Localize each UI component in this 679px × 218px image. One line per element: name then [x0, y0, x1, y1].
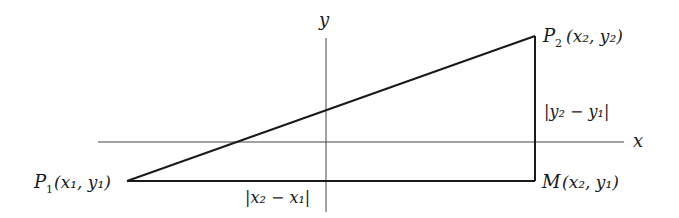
y-axis-label: y: [318, 9, 330, 30]
vertical-distance-label: |y₂ − y₁|: [544, 102, 609, 121]
point-p1-coords: (x₁, y₁): [54, 172, 111, 192]
x-axis-label: x: [633, 130, 643, 151]
point-p1-name: P: [33, 171, 47, 192]
hypotenuse-p1-p2: [127, 36, 535, 181]
point-m-name: M: [541, 171, 561, 192]
point-p2-label: P 2 (x₂, y₂): [542, 25, 623, 50]
point-p1-subscript: 1: [46, 183, 53, 196]
point-p2-subscript: 2: [555, 37, 562, 50]
point-m-label: M (x₂, y₁): [541, 171, 619, 192]
point-p2-name: P: [542, 25, 556, 46]
point-p1-label: P 1 (x₁, y₁): [33, 171, 111, 196]
horizontal-distance-label: |x₂ − x₁|: [245, 188, 310, 207]
distance-formula-diagram: y x P 1 (x₁, y₁) P 2 (x₂, y₂) M (x₂, y₁)…: [0, 0, 679, 218]
point-m-coords: (x₂, y₁): [562, 172, 619, 192]
point-p2-coords: (x₂, y₂): [566, 26, 623, 46]
